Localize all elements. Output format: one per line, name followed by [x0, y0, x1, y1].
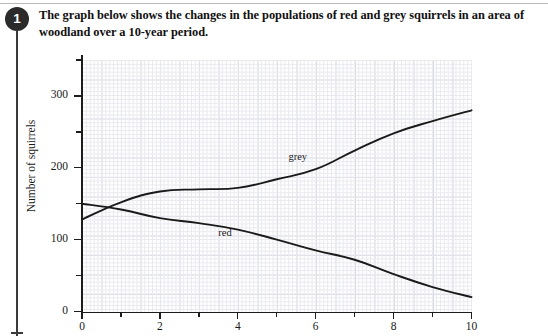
y-axis-tick: [74, 167, 81, 168]
x-axis-tick-label: 0: [67, 320, 97, 332]
x-axis-minor-tick: [198, 313, 199, 317]
y-axis-minor-tick: [76, 59, 81, 60]
x-axis-tick-label: 6: [301, 320, 331, 332]
y-axis-minor-tick: [76, 131, 81, 132]
x-axis-tick: [81, 313, 82, 319]
y-axis-title: Number of squirrels: [25, 91, 37, 241]
x-axis-tick-label: 2: [145, 320, 175, 332]
series-label-grey: grey: [288, 151, 307, 162]
x-axis-tick: [315, 313, 316, 319]
y-axis-minor-tick: [76, 275, 81, 276]
y-axis-minor-tick: [76, 203, 81, 204]
y-axis-tick: [74, 311, 81, 312]
y-axis-line: [81, 55, 83, 313]
x-axis-tick-label: 4: [223, 320, 253, 332]
x-axis-tick: [471, 313, 472, 319]
x-axis-minor-tick: [120, 313, 121, 317]
x-axis-tick-label: 10: [457, 320, 487, 332]
series-label-red: red: [218, 227, 231, 238]
x-axis-tick: [393, 313, 394, 319]
squirrel-population-chart: 01002003000246810 Number of squirrels gr…: [0, 0, 548, 336]
x-axis-tick: [159, 313, 160, 319]
x-axis-tick: [237, 313, 238, 319]
x-axis-minor-tick: [276, 313, 277, 317]
y-axis-tick: [74, 95, 81, 96]
plot-grid: [82, 60, 472, 312]
x-axis-minor-tick: [354, 313, 355, 317]
x-axis-minor-tick: [432, 313, 433, 317]
y-axis-tick: [74, 239, 81, 240]
x-axis-tick-label: 8: [379, 320, 409, 332]
y-axis-tick-label: 0: [28, 304, 68, 316]
